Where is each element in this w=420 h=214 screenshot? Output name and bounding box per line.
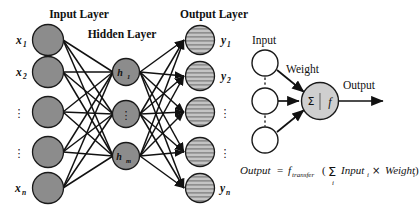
output-node[interactable] [186,26,215,55]
output-layer-group [186,26,215,203]
hidden-node-sublabel: 1 [127,73,130,80]
input-node[interactable] [33,57,64,88]
output-node-label: y [219,70,227,83]
input-node-ellipsis: ⋮ [14,147,25,160]
output-equation: Output = f transfer ( Σ i Input i × Weig… [240,164,419,187]
hidden-layer-label: Hidden Layer [88,28,157,41]
equation-transfer-sub: transfer [292,171,314,179]
input-node[interactable] [33,173,64,204]
output-node[interactable] [186,138,215,167]
neuron-input-node[interactable] [252,127,278,153]
neuron-input-node[interactable] [252,88,278,114]
output-node-label: y [218,182,226,195]
output-node[interactable] [186,174,215,203]
input-node-sublabel: 2 [22,72,27,81]
neural-network-figure: Input Layer Hidden Layer Output Layer x … [0,0,420,214]
equation-equals: = [277,164,283,176]
output-node-labels: y 1 y 2 ⋮ ⋮ y n [218,34,231,197]
input-node[interactable] [33,137,64,168]
equation-sigma-index: i [332,179,334,187]
neuron-input-circles [252,50,278,153]
equation-close-paren: ) [415,164,419,177]
output-node-ellipsis: ⋮ [220,147,231,160]
equation-input-sub: i [367,171,369,179]
neuron-input-label: Input [252,34,277,47]
neuron-weight-label: Weight [286,63,320,76]
output-node-sublabel: n [226,188,230,197]
input-node-label: x [15,66,22,78]
input-node-labels: x 1 x 2 ⋮ ⋮ x n [14,34,28,197]
output-node-label: y [219,34,227,47]
output-node[interactable] [186,98,215,127]
input-node-sublabel: 1 [23,40,27,49]
input-layer-group [33,25,64,204]
input-node-ellipsis: ⋮ [14,107,25,120]
output-node-ellipsis: ⋮ [220,107,231,120]
input-node[interactable] [33,25,64,56]
input-node-label: x [15,34,22,46]
input-node-label: x [14,182,21,194]
input-node-sublabel: n [22,188,26,197]
input-layer-label: Input Layer [49,8,109,21]
output-layer-label: Output Layer [180,8,248,21]
hidden-node-ellipsis: ⋮ [121,109,132,122]
equation-weight-term: Weight [385,164,416,176]
summation-symbol: Σ [308,95,315,108]
output-node-sublabel: 1 [227,40,231,49]
neuron-output-label: Output [343,79,376,92]
hidden-node-label: h [117,67,123,78]
neuron-input-node[interactable] [252,50,278,76]
nodes-and-labels-layer: Input Layer Hidden Layer Output Layer x … [0,0,420,214]
equation-input-term: Input [340,164,365,176]
equation-lhs: Output [240,164,272,176]
hidden-node-sublabel: m [126,157,131,164]
hidden-node-label: h [116,151,122,162]
output-node[interactable] [186,62,215,91]
input-node[interactable] [33,97,64,128]
equation-open-paren: ( [322,164,326,177]
equation-sigma: Σ [328,164,336,179]
output-node-sublabel: 2 [226,76,231,85]
equation-times: × [372,165,380,176]
